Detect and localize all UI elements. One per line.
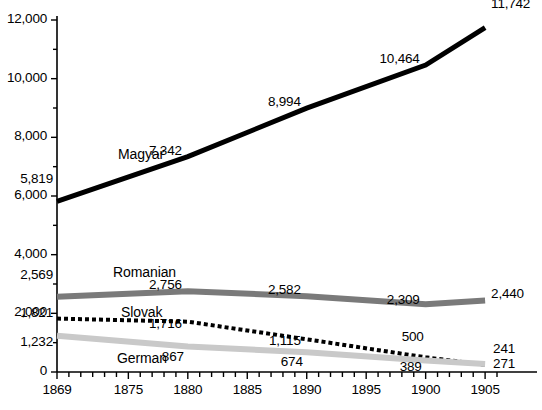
value-label: 2,440	[491, 286, 524, 301]
value-label: 271	[493, 356, 515, 371]
value-label: 5,819	[0, 171, 53, 186]
x-tick-label: 1905	[455, 382, 515, 397]
y-tick-label: 10,000	[0, 70, 47, 85]
x-tick-label: 1875	[98, 382, 158, 397]
series-label-romanian: Romanian	[113, 264, 176, 280]
x-tick-label: 1890	[277, 382, 337, 397]
y-tick-label: 6,000	[0, 187, 47, 202]
x-tick-label: 1885	[217, 382, 277, 397]
x-tick-label: 1900	[396, 382, 456, 397]
value-label: 11,742	[491, 0, 530, 11]
value-label: 2,309	[0, 292, 420, 307]
value-label: 389	[0, 359, 422, 374]
series-label-magyar: Magyar	[118, 146, 164, 162]
series-label-german: German	[117, 350, 167, 366]
series-label-slovak: Slovak	[121, 304, 162, 320]
value-label: 8,994	[0, 94, 301, 109]
x-tick-label: 1869	[27, 382, 87, 397]
value-label: 10,464	[0, 51, 420, 66]
x-tick-label: 1880	[158, 382, 218, 397]
x-tick-label: 1895	[336, 382, 396, 397]
population-line-chart: 02,0004,0006,0008,00010,00012,000 186918…	[0, 0, 542, 410]
value-label: 241	[493, 341, 515, 356]
y-tick-label: 12,000	[0, 11, 47, 26]
value-label: 1,232	[0, 334, 53, 349]
value-label: 500	[0, 329, 424, 344]
y-tick-label: 4,000	[0, 246, 47, 261]
y-tick-label: 8,000	[0, 128, 47, 143]
